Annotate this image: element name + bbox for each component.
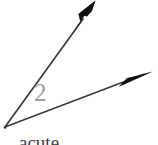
lower-ray-arrowhead-icon xyxy=(119,72,154,88)
angle-diagram-svg xyxy=(0,0,158,145)
upper-ray-line xyxy=(5,19,83,127)
vertex-point xyxy=(4,126,7,129)
angle-number-label: 2 xyxy=(34,80,47,105)
angle-classification-caption: acute xyxy=(19,133,59,145)
angle-figure: 2 acute xyxy=(0,0,158,145)
upper-ray-arrowhead-barb-icon xyxy=(79,1,96,17)
lower-ray-line xyxy=(5,81,126,127)
